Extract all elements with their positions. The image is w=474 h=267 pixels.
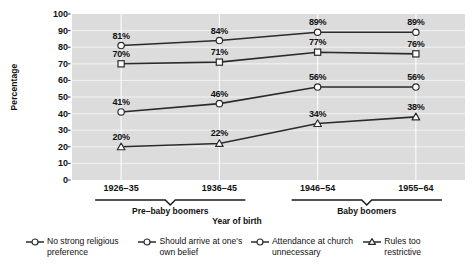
legend-label: Attendance at church unnecessary	[272, 236, 363, 258]
x-axis-tick-label: 1926–35	[104, 183, 139, 193]
legend-marker-triangle-icon	[363, 237, 381, 247]
y-axis-tick-label: 90	[40, 26, 68, 36]
data-point-marker	[216, 100, 222, 106]
data-point-marker	[118, 61, 124, 67]
data-point-marker	[216, 37, 222, 43]
chart-canvas	[72, 14, 465, 180]
data-point-marker	[413, 51, 419, 57]
data-point-label: 56%	[407, 72, 424, 82]
data-point-label: 71%	[211, 47, 228, 57]
data-point-marker	[314, 84, 320, 90]
data-point-label: 34%	[309, 109, 326, 119]
data-point-marker	[118, 42, 124, 48]
data-point-marker	[413, 84, 419, 90]
data-point-label: 22%	[211, 128, 228, 138]
legend-label: Rules too restrictive	[384, 236, 456, 258]
series-line	[121, 32, 416, 45]
group-bracket	[95, 200, 245, 205]
data-point-marker	[315, 49, 321, 55]
plot-area: 81%84%89%89%70%71%77%76%41%46%56%56%20%2…	[72, 14, 465, 180]
group-bracket	[292, 200, 442, 205]
chart-figure: Percentage 0102030405060708090100 81%84%…	[0, 0, 474, 267]
series-line	[121, 117, 416, 147]
y-axis-tick-label: 40	[40, 109, 68, 119]
legend-marker-circle-icon	[138, 237, 156, 247]
y-axis-title: Percentage	[9, 47, 19, 127]
data-point-label: 76%	[407, 39, 424, 49]
x-axis-tick-label: 1955–64	[398, 183, 433, 193]
data-point-marker	[118, 109, 124, 115]
data-point-marker	[314, 29, 320, 35]
x-axis-tick-labels: 1926–351936–451946–541955–64	[72, 183, 465, 197]
data-point-label: 56%	[309, 72, 326, 82]
y-axis-tick-label: 30	[40, 125, 68, 135]
data-point-label: 77%	[309, 37, 326, 47]
y-axis-tick-label: 20	[40, 142, 68, 152]
series-line	[121, 52, 416, 64]
data-point-marker	[216, 59, 222, 65]
legend-marker-circle-icon	[251, 237, 269, 247]
group-bracket-label: Baby boomers	[337, 206, 396, 216]
chart-legend: No strong religious preferenceShould arr…	[26, 236, 456, 264]
series-line	[121, 87, 416, 112]
data-point-label: 84%	[211, 26, 228, 36]
y-axis-tick-label: 70	[40, 59, 68, 69]
data-point-label: 46%	[211, 89, 228, 99]
legend-label: Should arrive at one's own belief	[159, 236, 250, 258]
data-point-label: 89%	[407, 17, 424, 27]
data-point-marker	[413, 29, 419, 35]
x-axis-title: Year of birth	[0, 216, 474, 226]
data-point-label: 89%	[309, 17, 326, 27]
y-axis-tick-label: 100	[40, 9, 68, 19]
group-bracket-label: Pre–baby boomers	[132, 206, 209, 216]
data-point-label: 81%	[112, 31, 129, 41]
y-axis-tick-label: 60	[40, 75, 68, 85]
y-axis-tick-label: 80	[40, 42, 68, 52]
data-point-label: 20%	[112, 132, 129, 142]
legend-item: Rules too restrictive	[363, 236, 456, 258]
legend-label: No strong religious preference	[47, 236, 138, 258]
legend-item: No strong religious preference	[26, 236, 138, 258]
x-axis-tick-label: 1936–45	[202, 183, 237, 193]
data-point-label: 70%	[112, 49, 129, 59]
y-axis-tick-labels: 0102030405060708090100	[40, 14, 68, 180]
y-axis-tick-label: 50	[40, 92, 68, 102]
y-axis-tick-label: 0	[40, 175, 68, 185]
data-point-label: 41%	[112, 97, 129, 107]
legend-item: Should arrive at one's own belief	[138, 236, 250, 258]
x-axis-tick-label: 1946–54	[300, 183, 335, 193]
data-point-label: 38%	[407, 102, 424, 112]
legend-marker-circle-icon	[26, 237, 44, 247]
y-axis-tick-label: 10	[40, 158, 68, 168]
legend-item: Attendance at church unnecessary	[251, 236, 363, 258]
